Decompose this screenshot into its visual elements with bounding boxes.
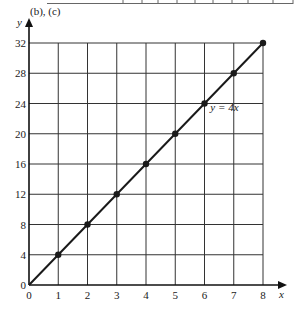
x-tick-label: 4	[143, 289, 149, 301]
data-series	[29, 40, 266, 285]
partial-table-border	[47, 0, 293, 4]
x-tick-label: 1	[56, 289, 62, 301]
data-point-marker	[260, 40, 266, 46]
x-tick-label: 6	[202, 289, 208, 301]
data-point-marker	[114, 191, 120, 197]
data-point-marker	[55, 252, 61, 258]
x-tick-label: 3	[114, 289, 120, 301]
line-annotation: y = 4x	[209, 101, 238, 113]
y-axis-arrow-icon	[25, 18, 33, 27]
x-tick-label: 8	[260, 289, 266, 301]
data-point-marker	[201, 100, 207, 106]
y-axis-label: y	[16, 16, 22, 28]
data-point-marker	[84, 221, 90, 227]
data-point-marker	[231, 70, 237, 76]
data-point-marker	[172, 131, 178, 137]
y-tick-label: 24	[15, 98, 27, 110]
part-label: (b), (c)	[30, 5, 61, 18]
line-chart: (b), (c) 012345678048121620242832 y = 4x…	[0, 0, 298, 311]
y-tick-label: 12	[15, 188, 26, 200]
y-tick-label: 16	[15, 158, 27, 170]
y-tick-label: 8	[21, 219, 27, 231]
x-tick-label: 0	[26, 289, 32, 301]
x-tick-label: 5	[173, 289, 179, 301]
y-tick-label: 32	[15, 37, 26, 49]
y-tick-label: 28	[15, 67, 27, 79]
y-tick-label: 4	[21, 249, 27, 261]
x-tick-label: 2	[85, 289, 91, 301]
data-point-marker	[143, 161, 149, 167]
y-tick-label: 0	[21, 279, 27, 291]
y-tick-label: 20	[15, 128, 27, 140]
x-tick-label: 7	[231, 289, 237, 301]
x-axis-label: x	[278, 288, 284, 300]
